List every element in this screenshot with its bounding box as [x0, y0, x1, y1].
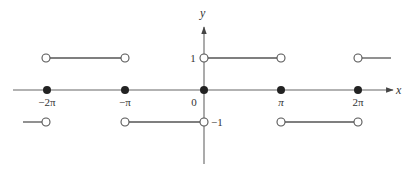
- open-point: [121, 54, 129, 62]
- filled-point-pi: [277, 86, 285, 94]
- open-point: [200, 54, 208, 62]
- open-point: [354, 54, 362, 62]
- piecewise-function-plot: x y: [0, 0, 410, 175]
- filled-point-2pi: [354, 86, 362, 94]
- y-tick-label-minus-one: −1: [211, 116, 223, 128]
- open-point: [200, 118, 208, 126]
- x-axis-label: x: [395, 83, 402, 97]
- tick-label-origin: 0: [191, 96, 197, 108]
- open-point: [277, 118, 285, 126]
- tick-label-m2pi: −2π: [38, 96, 56, 108]
- y-axis-label: y: [199, 6, 206, 20]
- filled-point-origin: [200, 86, 208, 94]
- open-point: [42, 118, 50, 126]
- open-point: [277, 54, 285, 62]
- open-point: [354, 118, 362, 126]
- tick-label-2pi: 2π: [352, 96, 364, 108]
- open-point: [42, 54, 50, 62]
- tick-label-mpi: −π: [119, 96, 131, 108]
- tick-label-pi: π: [278, 96, 284, 108]
- y-tick-label-one: 1: [190, 52, 196, 64]
- filled-point-m2pi: [43, 86, 51, 94]
- open-point: [121, 118, 129, 126]
- filled-point-mpi: [121, 86, 129, 94]
